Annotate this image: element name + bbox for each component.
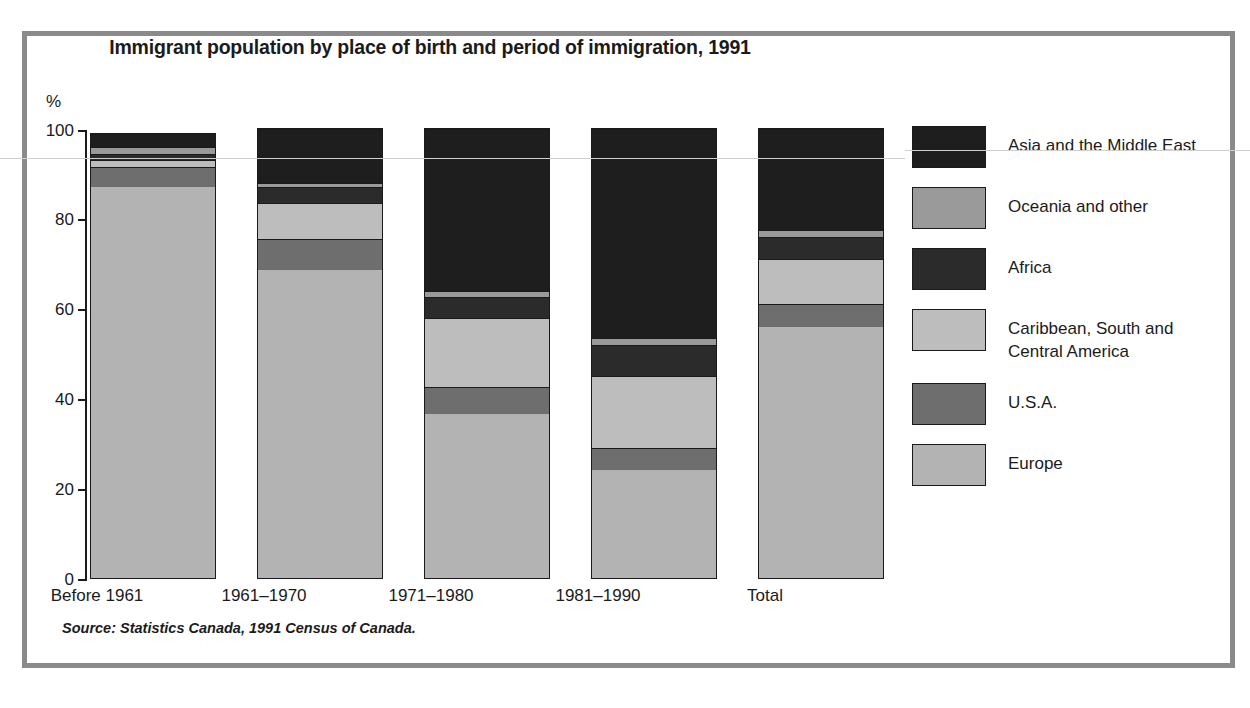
bar-segment[interactable]: [91, 160, 215, 167]
y-tick-label-100: 100: [28, 122, 74, 139]
bar-segment[interactable]: [91, 167, 215, 187]
legend-item-africa[interactable]: Africa: [912, 248, 1232, 290]
bar-segment[interactable]: [759, 237, 883, 259]
bar-segment[interactable]: [425, 387, 549, 414]
legend-swatch-icon-africa: [912, 248, 986, 290]
x-tick-label-1: 1961–1970: [174, 586, 354, 606]
bar-segment[interactable]: [91, 154, 215, 161]
bar-segment[interactable]: [592, 470, 716, 578]
legend-label-caribbean: Caribbean, South and Central America: [1008, 309, 1173, 364]
bar-segment[interactable]: [592, 345, 716, 376]
bar-column[interactable]: [758, 128, 884, 579]
bar-segment[interactable]: [759, 304, 883, 326]
y-tick-mark-20: [78, 489, 87, 491]
bar-segment[interactable]: [759, 129, 883, 230]
bar-segment[interactable]: [592, 448, 716, 470]
legend-swatch-icon-asia: [912, 126, 986, 168]
legend-label-africa: Africa: [1008, 248, 1051, 280]
x-tick-label-4: Total: [675, 586, 855, 606]
bar-segment[interactable]: [425, 297, 549, 317]
legend-swatch-icon-usa: [912, 383, 986, 425]
bar-segment[interactable]: [425, 318, 549, 388]
x-tick-label-2: 1971–1980: [341, 586, 521, 606]
bar-segment[interactable]: [759, 327, 883, 578]
bar-segment[interactable]: [759, 230, 883, 237]
bar-segment[interactable]: [258, 203, 382, 239]
bar-segment[interactable]: [592, 129, 716, 338]
y-tick-mark-100: [78, 130, 87, 132]
y-tick-label-80: 80: [28, 211, 74, 228]
bar-segment[interactable]: [91, 134, 215, 147]
legend-label-asia: Asia and the Middle East: [1008, 126, 1196, 158]
bar-column[interactable]: [90, 133, 216, 580]
legend-item-asia[interactable]: Asia and the Middle East: [912, 126, 1232, 168]
bar-segment[interactable]: [258, 129, 382, 183]
bar-segment[interactable]: [91, 147, 215, 154]
bar-column[interactable]: [257, 128, 383, 579]
source-note: Source: Statistics Canada, 1991 Census o…: [62, 620, 416, 636]
bar-segment[interactable]: [91, 187, 215, 578]
y-tick-mark-0: [78, 579, 87, 581]
bar-segment[interactable]: [592, 376, 716, 448]
legend-label-oceania: Oceania and other: [1008, 187, 1148, 219]
y-tick-mark-40: [78, 399, 87, 401]
y-tick-mark-60: [78, 309, 87, 311]
bar-segment[interactable]: [258, 270, 382, 578]
bar-segment[interactable]: [425, 291, 549, 298]
bar-segment[interactable]: [759, 259, 883, 304]
x-tick-label-3: 1981–1990: [508, 586, 688, 606]
bar-segment[interactable]: [425, 414, 549, 578]
x-tick-label-0: Before 1961: [7, 586, 187, 606]
y-tick-label-60: 60: [28, 301, 74, 318]
legend-item-usa[interactable]: U.S.A.: [912, 383, 1232, 425]
legend-item-europe[interactable]: Europe: [912, 444, 1232, 486]
y-tick-mark-80: [78, 219, 87, 221]
bar-segment[interactable]: [592, 338, 716, 345]
y-axis-line: [85, 130, 87, 579]
bar-segment[interactable]: [425, 129, 549, 291]
bar-column[interactable]: [591, 128, 717, 579]
legend-swatch-icon-oceania: [912, 187, 986, 229]
y-tick-label-20: 20: [28, 481, 74, 498]
bar-segment[interactable]: [258, 187, 382, 203]
legend-swatch-icon-caribbean: [912, 309, 986, 351]
bar-segment[interactable]: [258, 239, 382, 270]
legend-label-usa: U.S.A.: [1008, 383, 1057, 415]
legend-swatch-icon-europe: [912, 444, 986, 486]
legend-label-europe: Europe: [1008, 444, 1063, 476]
y-tick-label-40: 40: [28, 391, 74, 408]
bar-column[interactable]: [424, 128, 550, 579]
legend-item-oceania[interactable]: Oceania and other: [912, 187, 1232, 229]
legend: Asia and the Middle East Oceania and oth…: [912, 126, 1232, 505]
legend-item-caribbean[interactable]: Caribbean, South and Central America: [912, 309, 1232, 364]
